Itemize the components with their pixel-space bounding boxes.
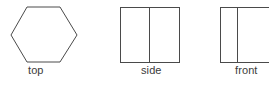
hexagon-shape: [0, 0, 90, 70]
view-label-top: top: [28, 64, 44, 77]
orthographic-views-figure: top side front: [0, 0, 269, 85]
square-divided-shape: [110, 0, 190, 70]
view-label-front: front: [235, 64, 258, 77]
rectangle-divided-shape: [210, 0, 269, 70]
hexagon-outline: [11, 7, 77, 62]
view-side: side: [110, 0, 190, 85]
view-label-side: side: [141, 64, 162, 77]
front-rectangle-outline: [221, 8, 270, 63]
view-top: top: [0, 0, 90, 85]
view-front: front: [210, 0, 269, 85]
